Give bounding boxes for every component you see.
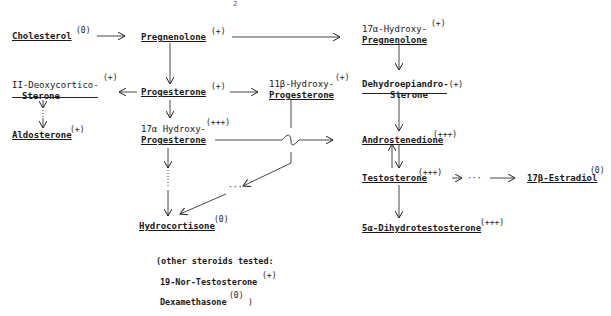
other-steroids-note: (other steroids tested:: [156, 256, 274, 267]
note-heading: (other steroids tested:: [156, 256, 274, 267]
activity-hydrocortisone: (0): [214, 215, 228, 224]
note-19-nor-testosterone-label: 19-Nor-Testosterone: [160, 277, 257, 287]
activity-17a-hydroxy-pregnenolone: (+): [431, 19, 445, 28]
node-11b-hydroxy-progesterone-line1: 11β-Hydroxy-: [269, 79, 334, 90]
node-aldosterone-label: Aldosterone: [12, 130, 72, 140]
pathway-arrows: ··· ···: [0, 0, 611, 316]
node-5a-dihydrotestosterone-label: 5α-Dihydrotestosterone: [362, 223, 481, 233]
underline-11-deoxycorticosterone: [12, 97, 98, 98]
node-11b-hydroxy-progesterone-line2: Progesterone: [269, 90, 334, 101]
node-androstenedione-label: Androstenedione: [362, 135, 443, 145]
activity-dexamethasone: (0): [229, 291, 243, 300]
node-pregnenolone: Pregnenolone: [141, 32, 206, 43]
node-dehydroepiandrosterone: Dehydroepiandro-(+) Sterone: [362, 79, 463, 101]
note-dexamethasone: Dexamethasone: [160, 297, 227, 308]
node-17a-hydroxy-pregnenolone: 17α-Hydroxy- Pregnenolone: [362, 24, 427, 46]
node-dehydroepiandrosterone-line1: Dehydroepiandro-(+): [362, 79, 463, 90]
activity-17b-estradiol: (0): [590, 166, 604, 175]
svg-text:···: ···: [228, 183, 242, 192]
activity-progesterone: (+): [211, 82, 225, 91]
node-dehydroepiandrosterone-line2: Sterone: [362, 90, 463, 101]
node-hydrocortisone: Hydrocortisone: [139, 221, 215, 232]
activity-5a-dihydrotestosterone: (+++): [480, 218, 504, 227]
node-cholesterol-label: Cholesterol: [12, 31, 72, 41]
activity-aldosterone: (+): [70, 125, 84, 134]
node-17a-hydroxy-progesterone-line1: 17α Hydroxy-: [141, 124, 206, 135]
node-androstenedione: Androstenedione: [362, 135, 443, 146]
node-progesterone-label: Progesterone: [141, 87, 206, 97]
node-5a-dihydrotestosterone: 5α-Dihydrotestosterone: [362, 223, 481, 234]
dhea-line1-text: Dehydroepiandro-: [362, 79, 449, 89]
activity-pregnenolone: (+): [211, 27, 225, 36]
node-17a-hydroxy-pregnenolone-line2: Pregnenolone: [362, 35, 427, 46]
node-pregnenolone-label: Pregnenolone: [141, 32, 206, 42]
node-11-deoxycorticosterone-line1: II-Deoxycortico-: [12, 80, 99, 91]
note-19-nor-testosterone: 19-Nor-Testosterone: [160, 277, 257, 288]
activity-testosterone: (+++): [418, 168, 442, 177]
node-progesterone: Progesterone: [141, 87, 206, 98]
node-17a-hydroxy-progesterone-line2: Progesterone: [141, 135, 206, 146]
activity-17a-hydroxy-progesterone: (+++): [206, 118, 230, 127]
note-close-paren: ): [248, 298, 253, 307]
node-17b-estradiol: 17β-Estradiol: [527, 173, 597, 184]
node-11-deoxycorticosterone: II-Deoxycortico- Sterone: [12, 80, 99, 102]
activity-19-nor-testosterone: (+): [262, 271, 276, 280]
note-dexamethasone-label: Dexamethasone: [160, 297, 227, 307]
node-17a-hydroxy-pregnenolone-line1: 17α-Hydroxy-: [362, 24, 427, 35]
activity-11-deoxycorticosterone: (+): [103, 73, 117, 82]
underline-dehydroepiandrosterone: [362, 93, 447, 94]
activity-androstenedione: (+++): [433, 130, 457, 139]
node-17a-hydroxy-progesterone: 17α Hydroxy- Progesterone: [141, 124, 206, 146]
activity-cholesterol: (0): [76, 26, 90, 35]
node-cholesterol: Cholesterol: [12, 31, 72, 42]
node-hydrocortisone-label: Hydrocortisone: [139, 221, 215, 231]
activity-11b-hydroxy-progesterone: (+): [335, 73, 349, 82]
node-aldosterone: Aldosterone: [12, 130, 72, 141]
node-17b-estradiol-label: 17β-Estradiol: [527, 173, 597, 183]
svg-text:···: ···: [467, 174, 481, 183]
activity-dehydroepiandrosterone: (+): [449, 80, 463, 89]
node-11b-hydroxy-progesterone: 11β-Hydroxy- Progesterone: [269, 79, 334, 101]
